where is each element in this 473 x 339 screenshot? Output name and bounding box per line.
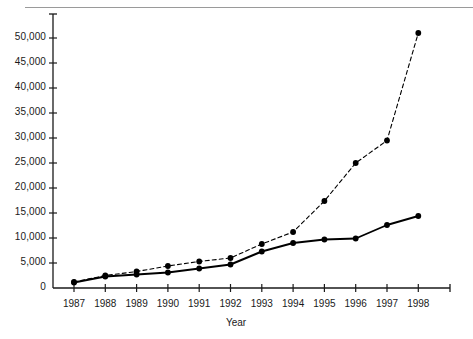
x-axis-title: Year — [186, 317, 286, 328]
y-axis-tick-label: 0 — [0, 281, 46, 292]
chart-container: 05,00010,00015,00020,00025,00030,00035,0… — [0, 0, 473, 339]
x-axis-tick-label: 1991 — [182, 298, 216, 309]
x-axis-tick-label: 1997 — [370, 298, 404, 309]
y-axis-tick-label: 5,000 — [0, 256, 46, 267]
axis-lines — [49, 14, 450, 292]
x-axis-tick-label: 1993 — [245, 298, 279, 309]
chart-plot-area — [0, 0, 473, 339]
y-axis-tick-label: 40,000 — [0, 81, 46, 92]
y-axis-tick-label: 15,000 — [0, 206, 46, 217]
y-axis-tick-label: 45,000 — [0, 56, 46, 67]
x-axis-tick-label: 1990 — [151, 298, 185, 309]
x-axis-tick-label: 1987 — [57, 298, 91, 309]
series-dashed-line — [74, 33, 418, 282]
x-axis-tick-label: 1995 — [307, 298, 341, 309]
x-axis-tick-label: 1988 — [88, 298, 122, 309]
y-axis-tick-label: 10,000 — [0, 231, 46, 242]
y-axis-tick-label: 20,000 — [0, 181, 46, 192]
data-point-markers — [71, 30, 421, 285]
x-axis-tick-label: 1998 — [401, 298, 435, 309]
y-axis-tick-label: 35,000 — [0, 106, 46, 117]
x-axis-tick-label: 1992 — [214, 298, 248, 309]
x-axis-tick-label: 1996 — [339, 298, 373, 309]
x-axis-tick-label: 1989 — [120, 298, 154, 309]
y-axis-tick-label: 25,000 — [0, 156, 46, 167]
y-axis-tick-label: 50,000 — [0, 31, 46, 42]
x-axis-tick-label: 1994 — [276, 298, 310, 309]
y-axis-tick-label: 30,000 — [0, 131, 46, 142]
